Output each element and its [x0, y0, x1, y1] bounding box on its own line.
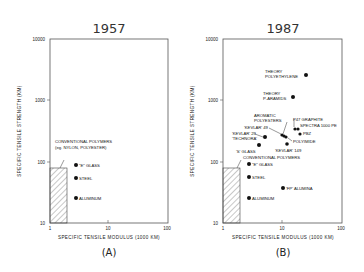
label-technora: 'TECHNORA'	[232, 136, 257, 141]
label-e-glass: "E" GLASS	[252, 162, 273, 167]
label-conventional-polymers: CONVENTIONAL POLYMERS	[243, 155, 300, 160]
x-tick-10: 10	[105, 226, 111, 231]
x-axis-label: SPECIFIC TENSILE MODULUS (1000 KM)	[232, 235, 334, 240]
label-conventional-polymers-eg: (eg. NYLON, POLYESTER)	[55, 145, 107, 150]
figure: 1957 10000 1000 100 10 1 10 100 SPECIFIC…	[0, 0, 364, 272]
label-spectra: SPECTRA 1000 PE	[300, 123, 337, 128]
label-pbz: PBZ	[303, 131, 312, 136]
chart-title-1987: 1987	[266, 21, 299, 36]
panel-label-b: (B)	[276, 247, 291, 258]
label-steel: STEEL	[79, 176, 93, 181]
point-aluminum	[247, 196, 251, 200]
label-p47-graphite: P47 GRAPHITE	[293, 117, 323, 122]
leader-line	[60, 160, 64, 168]
y-tick-10: 10	[40, 221, 46, 226]
leader-line	[269, 128, 281, 134]
point-p47-graphite	[293, 127, 296, 130]
label-aluminum: ALUMINUM	[252, 196, 275, 201]
point-polyimide	[284, 135, 287, 138]
y-tick-1000: 1000	[208, 98, 219, 103]
point-kevlar-149	[285, 142, 289, 146]
label-fp-alumina: 'FP' ALUMINA	[286, 186, 313, 191]
label-s-glass: 'S' GLASS	[236, 149, 256, 154]
label-e-glass: "E" GLASS	[79, 163, 100, 168]
chart-1987: 1987 10000 1000 100 10 1 10 100 SPECIFIC…	[190, 21, 345, 258]
panel-label-a: (A)	[102, 247, 117, 258]
label-steel: STEEL	[252, 175, 266, 180]
point-theory-polyethylene	[304, 73, 308, 77]
point-aluminum	[74, 196, 78, 200]
point-kevlar-29-technora	[263, 135, 267, 139]
point-fp-alumina	[281, 186, 285, 190]
x-tick-100: 100	[337, 226, 345, 231]
label-p-aramids: P-ARAMIDS	[263, 96, 286, 101]
point-pbz	[298, 132, 301, 135]
point-e-glass	[74, 163, 78, 167]
y-tick-10000: 10000	[205, 37, 218, 42]
chart-1957: 1957 10000 1000 100 10 1 10 100 SPECIFIC…	[17, 21, 171, 258]
label-aluminum: ALUMINUM	[79, 196, 102, 201]
y-tick-10: 10	[213, 221, 219, 226]
leader-line	[237, 160, 241, 168]
label-polyesters: POLYESTERS	[254, 118, 282, 123]
point-spectra-1000-pe	[296, 127, 299, 130]
label-kevlar-149: 'KEVLAR' 149	[275, 148, 302, 153]
conventional-polymers-region	[223, 168, 240, 223]
x-tick-10: 10	[279, 226, 285, 231]
y-tick-100: 100	[210, 160, 218, 165]
plot-frame	[50, 39, 168, 223]
conventional-polymers-region	[50, 168, 67, 223]
label-polyimide: POLYIMIDE	[293, 139, 316, 144]
point-theory-p-aramids	[291, 95, 295, 99]
y-axis-label: SPECIFIC TENSILE STRENGTH (KM)	[17, 85, 22, 176]
point-steel	[247, 175, 251, 179]
point-steel	[74, 176, 78, 180]
y-axis-ticks: 10000 1000 100 10	[32, 37, 50, 226]
x-tick-1: 1	[49, 226, 52, 231]
point-s-glass	[257, 143, 261, 147]
leader-line	[288, 138, 292, 141]
y-tick-10000: 10000	[32, 37, 45, 42]
x-tick-100: 100	[163, 226, 171, 231]
chart-title-1957: 1957	[92, 21, 125, 36]
y-tick-1000: 1000	[35, 98, 46, 103]
label-conventional-polymers: CONVENTIONAL POLYMERS	[55, 139, 112, 144]
point-e-glass	[247, 162, 251, 166]
y-axis-label: SPECIFIC TENSILE STRENGTH (KM)	[190, 85, 195, 176]
x-tick-1: 1	[222, 226, 225, 231]
x-axis-label: SPECIFIC TENSILE MODULUS (1000 KM)	[58, 235, 160, 240]
leader-line	[283, 122, 287, 134]
label-kevlar-49: 'KEVLAR' 49	[244, 125, 269, 130]
y-axis-ticks: 10000 1000 100 10	[205, 37, 223, 226]
label-polyethylene: POLYETHYLENE	[265, 74, 298, 79]
y-tick-100: 100	[37, 160, 45, 165]
